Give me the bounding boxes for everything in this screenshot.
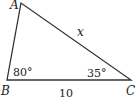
vertex-c-label: C: [126, 84, 135, 98]
side-bc-label: 10: [59, 87, 73, 100]
angle-b-label: 80°: [13, 66, 33, 79]
vertex-b-label: B: [0, 84, 10, 98]
vertex-a-label: A: [9, 0, 19, 12]
triangle-diagram: A B C x 10 80° 35°: [0, 0, 139, 102]
angle-c-label: 35°: [87, 67, 107, 80]
side-ac-label: x: [77, 25, 84, 39]
